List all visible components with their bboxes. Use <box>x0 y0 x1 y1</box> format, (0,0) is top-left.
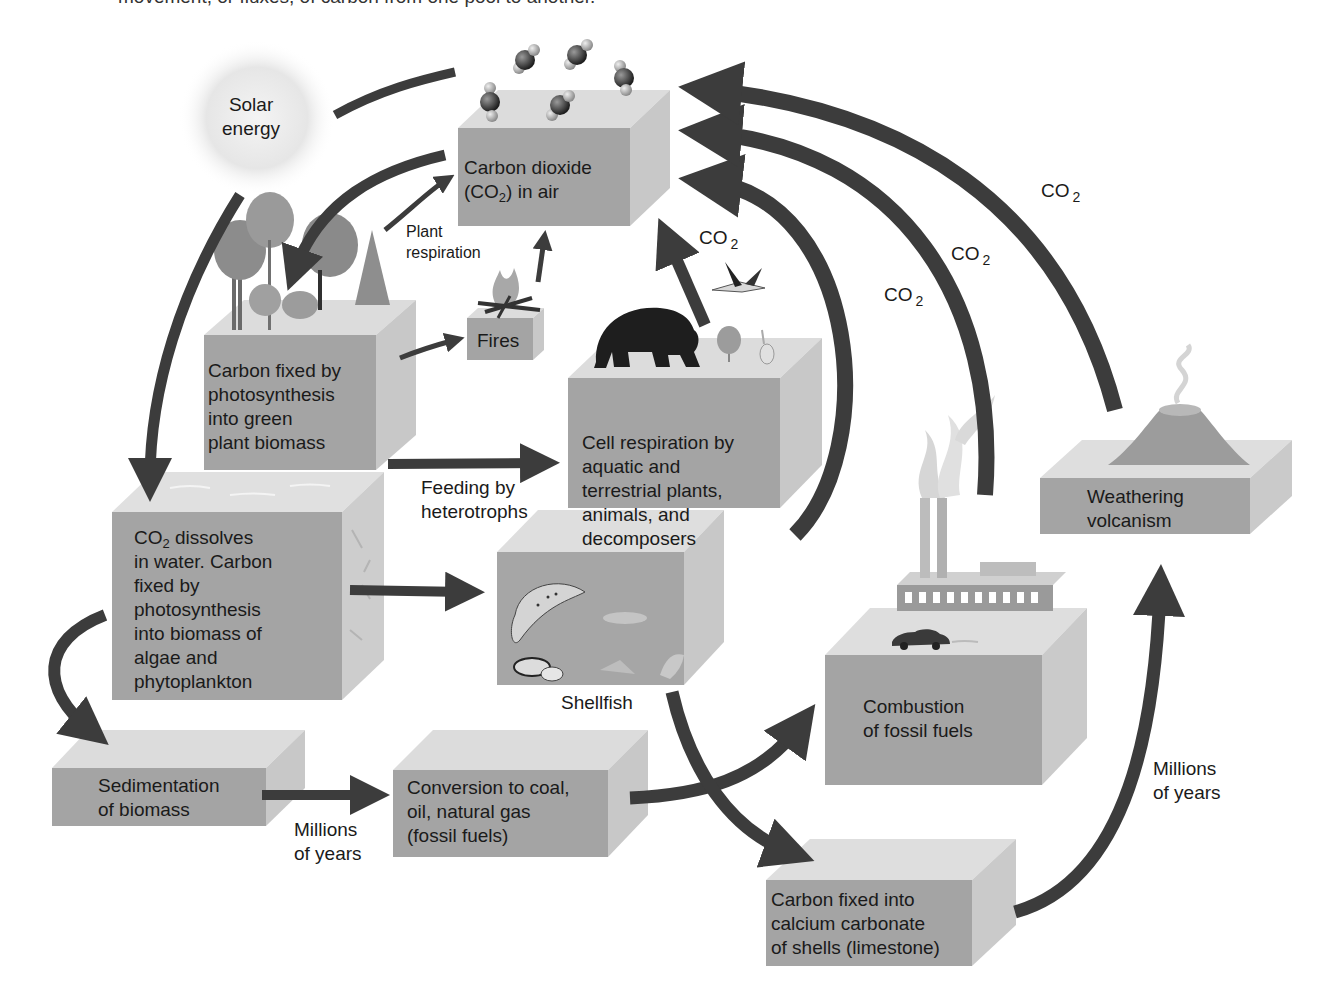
carbon-cycle-diagram: movement, or fluxes, of carbon from one … <box>0 0 1325 988</box>
arrow-feeding <box>388 463 540 464</box>
bird-icon <box>712 262 765 292</box>
millions-years-right-label: Millions of years <box>1153 757 1221 805</box>
co2-label-volcanism: CO2 <box>1041 180 1080 205</box>
water-algae-label: CO2 dissolves in water. Carbon fixed by … <box>134 526 344 694</box>
rabbit-icon <box>760 330 774 364</box>
co2-subscript: 2 <box>1073 189 1081 205</box>
arrow-water-to-aquatic <box>350 590 465 592</box>
small-fish-icon <box>603 612 647 624</box>
combustion-label: Combustion of fossil fuels <box>863 695 973 743</box>
volcano-icon <box>1108 345 1250 465</box>
fossil-conversion-label: Conversion to coal, oil, natural gas (fo… <box>407 776 570 848</box>
arrow-shellfish-to-limestone <box>672 692 790 852</box>
co2-air-label-pre: (CO <box>464 181 499 202</box>
fires-label: Fires <box>477 329 519 353</box>
co2-label-respiration: CO2 <box>699 227 738 252</box>
co2-text: CO <box>1041 180 1070 201</box>
co2-subscript: 2 <box>916 293 924 309</box>
co2-text: CO <box>699 227 728 248</box>
millions-years-left-label: Millions of years <box>294 818 362 866</box>
co2-label-combustion: CO2 <box>951 243 990 268</box>
co2-subscript: 2 <box>731 236 739 252</box>
shellfish-label: Shellfish <box>561 691 633 715</box>
sedimentation-label: Sedimentation of biomass <box>98 774 219 822</box>
water-label-pre: CO <box>134 527 163 548</box>
co2-air-label-post: ) in air <box>506 181 559 202</box>
arrow-fires-to-air <box>538 240 544 282</box>
co2-text: CO <box>884 284 913 305</box>
cell-respiration-label: Cell respiration by aquatic and terrestr… <box>582 431 734 551</box>
limestone-label: Carbon fixed into calcium carbonate of s… <box>771 888 940 960</box>
co2-label-decomposers: CO2 <box>884 284 923 309</box>
water-label-sub: 2 <box>163 536 170 551</box>
arrow-water-to-sedimentation <box>54 615 105 730</box>
co2-text: CO <box>951 243 980 264</box>
plant-biomass-label: Carbon fixed by photosynthesis into gree… <box>208 359 341 455</box>
feeding-label: Feeding by heterotrophs <box>421 476 528 524</box>
weathering-label: Weathering volcanism <box>1087 485 1184 533</box>
arrow-sun-to-air <box>335 72 455 115</box>
co2-air-label-sub: 2 <box>499 190 506 205</box>
solar-energy-label: Solar energy <box>222 93 280 141</box>
plant-respiration-label: Plant respiration <box>406 221 481 263</box>
co2-air-label: Carbon dioxide (CO2) in air <box>464 156 629 204</box>
co2-air-label-line1: Carbon dioxide <box>464 157 592 178</box>
water-label-post: dissolves in water. Carbon fixed by phot… <box>134 527 272 692</box>
co2-subscript: 2 <box>983 252 991 268</box>
